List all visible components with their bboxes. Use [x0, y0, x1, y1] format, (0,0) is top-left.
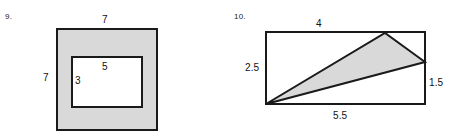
- label-top-segment-4: 4: [316, 18, 322, 29]
- problem-10-figure: 10. 4 2.5 1.5 5.5: [228, 0, 455, 137]
- geometry-worksheet: 9. 7 7 5 3 10. 4 2.5 1.5 5.5: [0, 0, 455, 137]
- label-left-side-2point5: 2.5: [245, 62, 259, 73]
- label-inner-top-5: 5: [102, 61, 108, 72]
- label-outer-left-7: 7: [43, 72, 49, 83]
- problem-10: 10. 4 2.5 1.5 5.5: [228, 0, 455, 137]
- label-inner-left-3: 3: [75, 75, 81, 86]
- label-outer-top-7: 7: [102, 14, 108, 25]
- label-right-segment-1point5: 1.5: [429, 77, 443, 88]
- problem-9-number: 9.: [5, 12, 12, 22]
- label-bottom-side-5point5: 5.5: [333, 110, 347, 121]
- problem-9: 9. 7 7 5 3: [0, 0, 228, 137]
